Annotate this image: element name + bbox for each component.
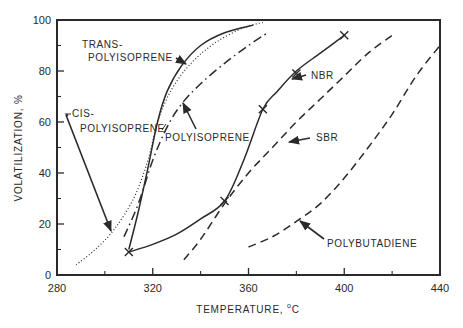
x-tick-label: 360 bbox=[239, 282, 257, 294]
label-trans-polyisoprene-line1: TRANS- bbox=[82, 39, 123, 50]
y-tick-label: 40 bbox=[39, 167, 51, 179]
label-cis-polyisoprene-line2: POLYISOPRENE bbox=[80, 123, 165, 134]
series-nbr bbox=[129, 35, 344, 252]
x-tick-label: 400 bbox=[335, 282, 353, 294]
annotation-polyisoprene: POLYISOPRENE bbox=[165, 103, 250, 143]
y-tick-label: 60 bbox=[39, 116, 51, 128]
series-polybutadiene bbox=[249, 46, 441, 247]
annotation-trans-polyisoprene: TRANS- POLYISOPRENE bbox=[82, 39, 186, 64]
x-axis-title: TEMPERATURE, oC bbox=[196, 302, 300, 315]
annotation-sbr: SBR bbox=[289, 132, 338, 143]
y-tick-label: 20 bbox=[39, 218, 51, 230]
x-marker-icon bbox=[259, 105, 267, 113]
x-tick-label: 280 bbox=[48, 282, 66, 294]
y-tick-label: 0 bbox=[45, 269, 51, 281]
arrow-icon bbox=[289, 138, 310, 142]
arrow-icon bbox=[300, 221, 324, 239]
label-trans-polyisoprene-line2: POLYISOPRENE bbox=[88, 52, 173, 63]
volatilization-chart: 280320360400440 020406080100 TEMPERATURE… bbox=[0, 0, 463, 328]
y-axis-title: VOLATILIZATION, % bbox=[13, 94, 24, 201]
y-tick-label: 80 bbox=[39, 65, 51, 77]
x-axis-tick-labels: 280320360400440 bbox=[48, 282, 449, 294]
x-tick-label: 440 bbox=[431, 282, 449, 294]
annotation-cis-polyisoprene: CIS- POLYISOPRENE bbox=[66, 108, 166, 231]
series-sbr bbox=[184, 35, 392, 259]
annotation-polybutadiene: POLYBUTADIENE bbox=[300, 221, 417, 249]
label-cis-polyisoprene-line1: CIS- bbox=[72, 108, 94, 119]
y-axis-tick-labels: 020406080100 bbox=[33, 14, 51, 281]
x-marker-icon bbox=[340, 31, 348, 39]
label-polyisoprene: POLYISOPRENE bbox=[165, 132, 250, 143]
label-nbr: NBR bbox=[311, 70, 334, 81]
label-sbr: SBR bbox=[316, 132, 338, 143]
arrow-icon bbox=[183, 103, 196, 129]
x-tick-label: 320 bbox=[144, 282, 162, 294]
y-tick-label: 100 bbox=[33, 14, 51, 26]
label-polybutadiene: POLYBUTADIENE bbox=[327, 238, 417, 249]
